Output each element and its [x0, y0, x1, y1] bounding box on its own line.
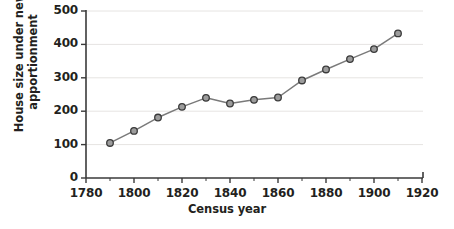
- y-axis-title-wrap: House size under new apportionment: [13, 0, 43, 137]
- data-point-1890: [347, 56, 354, 63]
- x-tick-label-1840: 1840: [208, 186, 252, 200]
- y-tick-label-300: 300: [44, 70, 78, 84]
- data-point-1900: [371, 46, 378, 53]
- x-tick-label-1920: 1920: [400, 186, 444, 200]
- data-point-1870: [299, 77, 306, 84]
- y-tick-label-400: 400: [44, 36, 78, 50]
- y-tick-label-0: 0: [44, 170, 78, 184]
- x-tick-label-1780: 1780: [64, 186, 108, 200]
- x-tick-label-1820: 1820: [160, 186, 204, 200]
- data-point-1840: [227, 100, 234, 107]
- data-point-1820: [179, 104, 186, 111]
- data-point-1810: [155, 114, 162, 121]
- y-tick-label-200: 200: [44, 103, 78, 117]
- data-point-1910: [395, 30, 402, 37]
- x-tick-label-1880: 1880: [304, 186, 348, 200]
- x-tick-label-1800: 1800: [112, 186, 156, 200]
- chart-figure: House size under new apportionment Censu…: [0, 0, 454, 229]
- data-point-1850: [251, 97, 258, 104]
- y-axis-title-line2: apportionment: [27, 0, 41, 137]
- x-axis-title: Census year: [0, 203, 454, 217]
- x-tick-label-1860: 1860: [256, 186, 300, 200]
- data-point-1790: [107, 140, 114, 147]
- x-tick-label-1900: 1900: [352, 186, 396, 200]
- y-tick-label-500: 500: [44, 3, 78, 17]
- y-axis-title-line1: House size under new: [13, 0, 27, 137]
- data-point-1880: [323, 66, 330, 73]
- data-point-1830: [203, 95, 210, 102]
- data-point-1860: [275, 94, 282, 101]
- y-tick-label-100: 100: [44, 137, 78, 151]
- data-point-1800: [131, 128, 138, 135]
